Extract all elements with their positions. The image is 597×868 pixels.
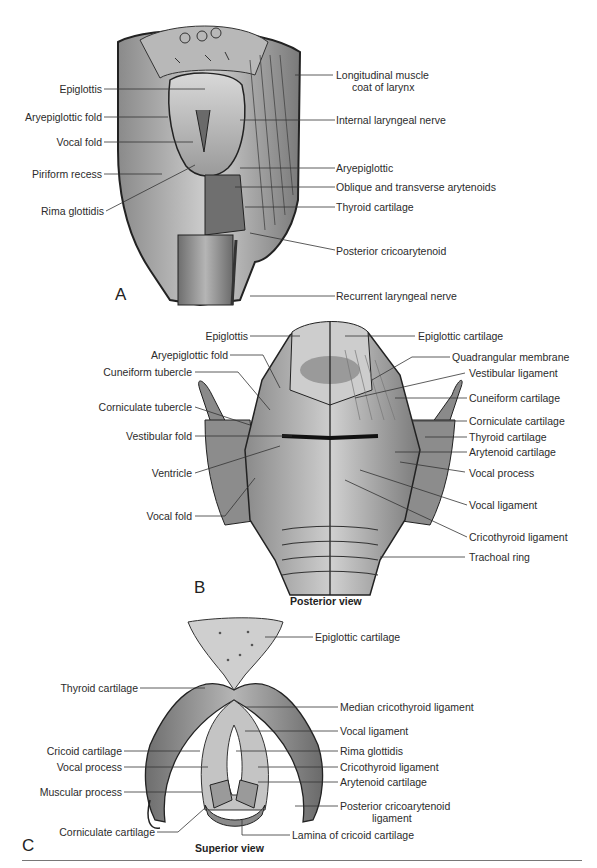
bottom-divider [22,860,582,861]
label-vocal-ligament-b: Vocal ligament [469,499,537,511]
label-thyroid-cartilage-c: Thyroid cartilage [0,682,138,694]
label-recurrent-laryngeal-nerve: Recurrent laryngeal nerve [336,290,457,302]
panel-letter-a: A [115,285,126,305]
label-cuneiform-cartilage: Cuneiform cartilage [469,392,560,404]
label-cricothyroid-ligament-c: Cricothyroid ligament [340,761,439,773]
label-posterior-cricoarytenoid: Posterior cricoarytenoid [336,245,446,257]
label-aryepiglottic-fold-b: Aryepiglottic fold [0,349,228,361]
label-arytenoid-cartilage-b: Arytenoid cartilage [469,446,556,458]
label-vestibular-ligament: Vestibular ligament [469,367,558,379]
label-coat-of-larynx: coat of larynx [352,81,414,93]
label-thyroid-cartilage-b: Thyroid cartilage [469,431,547,443]
panel-b-illustration [199,322,462,596]
label-piriform-recess: Piriform recess [0,168,102,180]
label-cricothyroid-ligament-b: Cricothyroid ligament [469,531,568,543]
panel-a-illustration [118,26,300,305]
label-vocal-process-b: Vocal process [469,467,534,479]
panel-letter-b: B [194,578,205,598]
label-aryepiglottic-fold: Aryepiglottic fold [0,111,102,123]
label-muscular-process: Muscular process [0,786,122,798]
label-cricoid-cartilage: Cricoid cartilage [0,745,122,757]
label-lamina-of-cricoid-cartilage: Lamina of cricoid cartilage [292,829,414,841]
label-rima-glottidis: Rima glottidis [0,205,104,217]
label-corniculate-tubercle: Corniculate tubercle [0,401,192,413]
caption-posterior-view: Posterior view [290,595,362,607]
label-ligament: ligament [372,812,412,824]
label-quadrangular-membrane: Quadrangular membrane [452,351,569,363]
label-arytenoid-cartilage-c: Arytenoid cartilage [340,776,427,788]
label-vestibular-fold: Vestibular fold [0,430,192,442]
label-rima-glottidis-c: Rima glottidis [340,745,403,757]
label-internal-laryngeal-nerve: Internal laryngeal nerve [336,114,446,126]
label-vocal-fold: Vocal fold [0,136,102,148]
panel-letter-c: C [22,836,34,856]
label-vocal-ligament-c: Vocal ligament [340,725,408,737]
label-oblique-transverse-arytenoids: Oblique and transverse arytenoids [336,181,496,193]
label-corniculate-cartilage-b: Corniculate cartilage [469,415,565,427]
label-median-cricothyroid-ligament: Median cricothyroid ligament [340,701,474,713]
label-thyroid-cartilage-a: Thyroid cartilage [336,201,414,213]
caption-superior-view: Superior view [195,842,264,854]
label-cuneiform-tubercle: Cuneiform tubercle [0,366,192,378]
label-epiglottis: Epiglottis [0,83,102,95]
label-epiglottic-cartilage-b: Epiglottic cartilage [418,330,503,342]
label-ventricle: Ventricle [0,467,192,479]
label-vocal-process-c: Vocal process [0,761,122,773]
label-tracheal-ring: Trachoal ring [469,551,530,563]
label-aryepiglottic: Aryepiglottic [336,162,393,174]
panel-c-illustration [145,618,322,828]
label-longitudinal-muscle: Longitudinal muscle [336,69,429,81]
label-epiglottis-b: Epiglottis [0,330,248,342]
label-vocal-fold-b: Vocal fold [0,510,192,522]
label-epiglottic-cartilage-c: Epiglottic cartilage [315,631,400,643]
label-posterior-cricoarytenoid-ligament: Posterior cricoarytenoid [340,800,450,812]
